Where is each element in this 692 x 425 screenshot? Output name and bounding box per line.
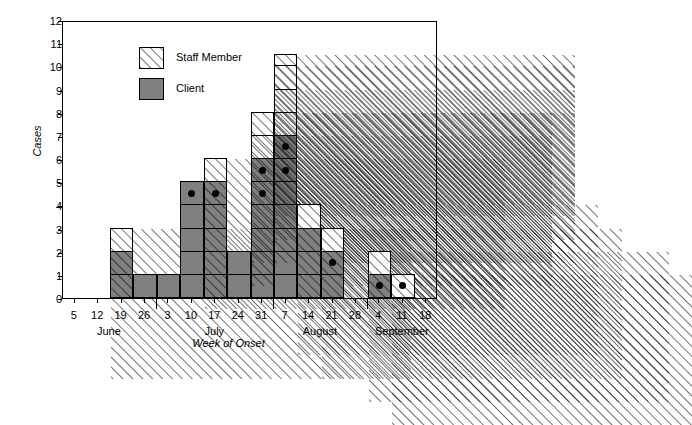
bar-cell-client-3-1	[157, 274, 180, 298]
x-tick-mark-18	[425, 299, 426, 303]
bar-cell-client-26-1	[133, 274, 156, 298]
hatch-fill-icon	[392, 275, 692, 425]
plot-area	[63, 22, 436, 298]
bar-cell-client-24-1	[227, 274, 250, 298]
x-month-label-september: September	[362, 325, 442, 337]
bar-week-26	[133, 275, 156, 298]
x-month-separator-july	[273, 298, 274, 309]
bar-week-10	[180, 182, 203, 298]
x-tick-label-8: 31	[248, 309, 274, 321]
x-tick-label-10: 14	[295, 309, 321, 321]
plot-frame: Staff Member Client	[62, 21, 437, 299]
bar-week-14	[297, 205, 320, 298]
bar-cell-client-10-2	[180, 251, 203, 275]
y-axis-ticks: 1211109876543210	[30, 21, 62, 299]
legend-label-client: Client	[176, 82, 204, 94]
bar-cell-client-10-1	[180, 274, 203, 298]
bar-cell-staff-21-3	[321, 228, 344, 252]
x-tick-label-0: 5	[61, 309, 87, 321]
bar-cell-staff-19-3	[110, 228, 133, 252]
bar-cell-client-10-3	[180, 228, 203, 252]
bar-week-3	[157, 275, 180, 298]
x-month-separator-june	[156, 298, 157, 309]
x-tick-mark-11	[402, 299, 403, 303]
x-tick-mark-28	[355, 299, 356, 303]
x-tick-label-9: 7	[272, 309, 298, 321]
x-tick-mark-10	[191, 299, 192, 303]
x-tick-mark-17	[214, 299, 215, 303]
x-tick-label-3: 26	[131, 309, 157, 321]
legend-swatch-staff-member	[139, 47, 164, 69]
bar-cell-staff-7-11	[274, 54, 297, 67]
x-tick-mark-5	[74, 299, 75, 303]
case-marker-dot-10-5	[188, 190, 195, 197]
bar-cell-staff-4-2	[368, 251, 391, 275]
x-tick-label-5: 10	[178, 309, 204, 321]
x-tick-mark-12	[97, 299, 98, 303]
x-tick-mark-14	[308, 299, 309, 303]
bar-week-24	[227, 252, 250, 298]
bar-cell-staff-11-1	[391, 274, 414, 298]
x-tick-mark-24	[238, 299, 239, 303]
bar-week-19	[110, 229, 133, 299]
bar-week-7	[274, 55, 297, 298]
x-month-label-july: July	[174, 325, 254, 337]
bar-cell-client-10-5	[180, 181, 203, 205]
x-tick-mark-31	[261, 299, 262, 303]
x-tick-mark-4	[378, 299, 379, 303]
x-tick-mark-26	[144, 299, 145, 303]
x-tick-label-2: 19	[108, 309, 134, 321]
x-axis-title: Week of Onset	[0, 337, 457, 349]
x-tick-label-4: 3	[154, 309, 180, 321]
x-tick-label-12: 28	[342, 309, 368, 321]
legend-swatch-client	[139, 78, 164, 100]
x-tick-mark-3	[167, 299, 168, 303]
bar-cell-staff-17-6	[204, 158, 227, 182]
bar-week-11	[391, 275, 414, 298]
hatch-pattern-icon	[140, 48, 164, 69]
x-tick-label-6: 17	[201, 309, 227, 321]
bar-cell-client-10-4	[180, 204, 203, 228]
bar-cell-client-24-2	[227, 251, 250, 275]
x-tick-label-11: 21	[319, 309, 345, 321]
x-tick-label-13: 4	[365, 309, 391, 321]
bar-week-17	[204, 159, 227, 298]
x-month-label-august: August	[280, 325, 360, 337]
x-month-separator-august	[367, 298, 368, 309]
x-tick-label-1: 12	[84, 309, 110, 321]
x-month-label-june: June	[69, 325, 149, 337]
bar-week-21	[321, 229, 344, 299]
x-tick-label-14: 11	[389, 309, 415, 321]
x-axis-ticks: 5121926310172431714212841118JuneJulyAugu…	[62, 299, 437, 311]
x-tick-label-15: 18	[412, 309, 438, 321]
x-tick-label-7: 24	[225, 309, 251, 321]
x-tick-mark-7	[285, 299, 286, 303]
hatch-fill-icon	[275, 55, 575, 205]
bar-week-4	[368, 252, 391, 298]
bar-cell-staff-14-4	[297, 204, 320, 228]
x-tick-mark-21	[332, 299, 333, 303]
x-tick-mark-19	[121, 299, 122, 303]
legend-label-staff-member: Staff Member	[176, 51, 242, 63]
bar-cell-client-7-1	[274, 274, 297, 298]
bar-week-31	[251, 113, 274, 298]
bar-cell-staff-31-8	[251, 112, 274, 136]
